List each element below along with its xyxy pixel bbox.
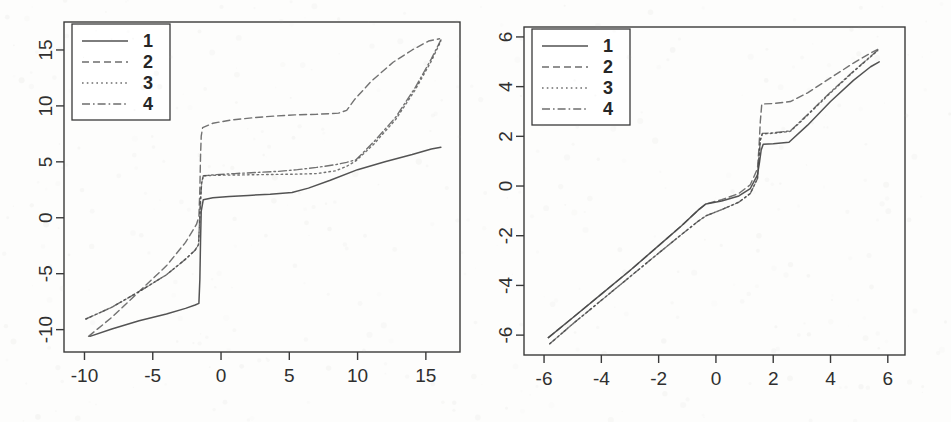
y-tick-label: 15 [36, 39, 57, 60]
figure-canvas: -10-5051015-10-5051015 1234 -6-4-20246-6… [0, 0, 951, 422]
legend-label-3: 3 [143, 73, 153, 93]
legend-label-2: 2 [143, 52, 153, 72]
legend-label-2: 2 [603, 57, 613, 77]
y-tick-label: -10 [36, 316, 57, 343]
x-tick-label: -2 [650, 368, 667, 389]
x-tick-label: 0 [711, 368, 722, 389]
legend-label-1: 1 [143, 31, 153, 51]
legend-label-4: 4 [603, 99, 613, 119]
y-tick-label: 0 [36, 212, 57, 223]
y-tick-label: 6 [496, 32, 517, 43]
series-line-1 [90, 147, 441, 336]
legend-label-4: 4 [143, 94, 153, 114]
y-tick-label: -5 [36, 265, 57, 282]
chart-svg-left: -10-5051015-10-5051015 1234 [0, 0, 476, 422]
x-tick-label: -4 [593, 368, 610, 389]
y-tick-label: -6 [496, 327, 517, 344]
legend-label-3: 3 [603, 78, 613, 98]
x-tick-label: 2 [768, 368, 779, 389]
x-tick-label: 4 [825, 368, 836, 389]
x-tick-label: 15 [415, 365, 436, 386]
y-tick-label: 5 [36, 157, 57, 168]
legend-left: 1234 [72, 24, 170, 120]
x-tick-label: -6 [536, 368, 553, 389]
chart-svg-right: -6-4-20246-6-4-20246 1234 [476, 0, 951, 422]
legend-label-1: 1 [603, 36, 613, 56]
x-tick-label: 5 [284, 365, 295, 386]
y-tick-label: 4 [496, 81, 517, 92]
legend-right: 1234 [532, 29, 630, 125]
y-tick-label: -2 [496, 227, 517, 244]
y-tick-label: -4 [496, 277, 517, 294]
legend-box [72, 24, 170, 120]
x-tick-label: 10 [347, 365, 368, 386]
y-tick-label: 10 [36, 95, 57, 116]
chart-panel-left: -10-5051015-10-5051015 1234 [0, 0, 476, 422]
legend-box [532, 29, 630, 125]
chart-panel-right: -6-4-20246-6-4-20246 1234 [476, 0, 951, 422]
x-tick-label: -10 [71, 365, 98, 386]
x-tick-label: 6 [883, 368, 894, 389]
y-tick-label: 2 [496, 131, 517, 142]
x-tick-label: -5 [144, 365, 161, 386]
y-tick-label: 0 [496, 181, 517, 192]
x-tick-label: 0 [216, 365, 227, 386]
